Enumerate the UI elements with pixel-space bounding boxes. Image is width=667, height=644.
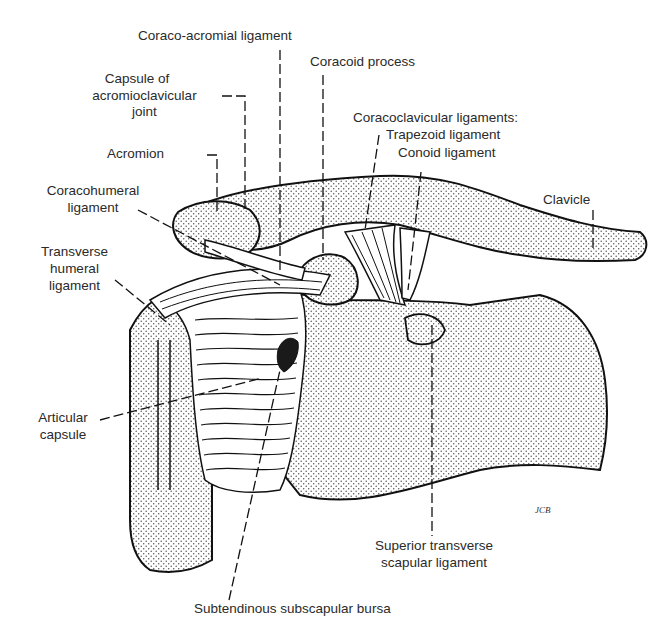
label-trapezoid-ligament: Trapezoid ligament — [386, 127, 500, 143]
conoid-ligament — [400, 228, 430, 300]
label-articular-capsule-line1: Articular — [28, 410, 98, 426]
label-superior-transverse-line1: Superior transverse — [354, 538, 514, 554]
label-superior-transverse-line2: scapular ligament — [354, 555, 514, 571]
label-coracoclavicular-ligaments: Coracoclavicular ligaments: — [353, 110, 518, 126]
label-coracohumeral-line2: ligament — [28, 200, 158, 216]
label-capsule-ac-line1: Capsule of — [72, 71, 202, 87]
label-transverse-humeral-line3: ligament — [27, 278, 122, 294]
label-conoid-ligament: Conoid ligament — [398, 145, 496, 161]
label-articular-capsule-line2: capsule — [28, 427, 98, 443]
label-capsule-ac-line2: acromioclavicular — [72, 88, 217, 104]
label-acromion: Acromion — [107, 146, 164, 162]
label-subtendinous-subscapular-bursa: Subtendinous subscapular bursa — [194, 601, 391, 617]
label-transverse-humeral-line2: humeral — [27, 261, 122, 277]
label-coracohumeral-line1: Coracohumeral — [28, 183, 158, 199]
label-coracoid-process: Coracoid process — [310, 54, 415, 70]
label-clavicle: Clavicle — [543, 192, 590, 208]
label-capsule-ac-line3: joint — [72, 104, 217, 120]
label-transverse-humeral-line1: Transverse — [27, 244, 122, 260]
label-coraco-acromial-ligament: Coraco-acromial ligament — [138, 28, 292, 44]
artist-signature: JCB — [535, 505, 551, 515]
